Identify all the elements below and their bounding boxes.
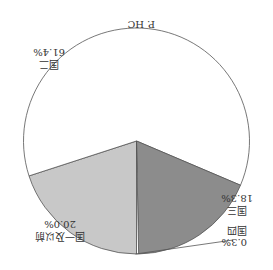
label-grade1-value: 20.0% <box>35 218 85 230</box>
label-grade3: 国三 18.3% <box>221 192 253 216</box>
label-grade4: 0.3% 国四 <box>222 224 247 248</box>
label-grade4-name: 国四 <box>222 224 247 236</box>
label-grade3-name: 国三 <box>221 204 253 216</box>
chart-title: P. HC <box>128 19 155 30</box>
label-grade4-value: 0.3% <box>222 236 247 248</box>
label-grade3-value: 18.3% <box>221 192 253 204</box>
label-grade1-name: 国一及以前 <box>35 230 85 242</box>
label-grade1: 国一及以前 20.0% <box>35 218 85 242</box>
label-grade2: 国二 61.4% <box>33 46 65 70</box>
pie-chart: P. HC 国一及以前 20.0% 国二 61.4% 国三 18.3% 0.3%… <box>0 0 273 270</box>
label-grade2-name: 国二 <box>33 58 65 70</box>
label-grade2-value: 61.4% <box>33 46 65 58</box>
